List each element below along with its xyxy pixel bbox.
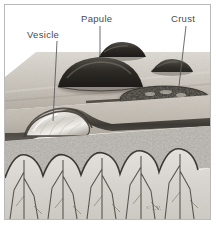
label-papule: Papule [81, 13, 112, 24]
label-vesicle: Vesicle [27, 29, 59, 40]
skin-lesion-figure: © J.V. Vesicle Papule Crust [0, 0, 216, 225]
label-crust: Crust [171, 13, 195, 24]
